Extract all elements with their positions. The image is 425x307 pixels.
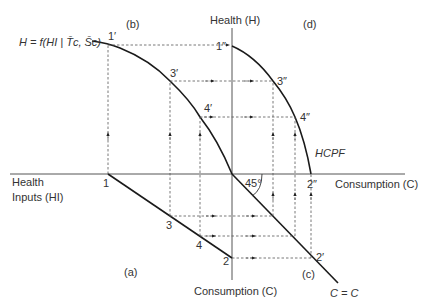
point-2: 2 (223, 255, 229, 267)
health-consumption-diagram: Health (H) Consumption (C) Consumption (… (0, 0, 425, 307)
point-4: 4 (196, 239, 202, 251)
point-4-dprime: 4″ (300, 111, 310, 123)
angle-label: 45° (245, 177, 262, 189)
point-3: 3 (166, 219, 172, 231)
consumption-axis-bottom-label: Consumption (C) (194, 285, 277, 297)
health-inputs-label-line2: Inputs (HI) (12, 191, 63, 203)
health-inputs-label-line1: Health (12, 176, 44, 188)
identity-line-label: C = C (330, 287, 358, 299)
health-axis-label: Health (H) (210, 14, 260, 26)
quadrant-c-label: (c) (302, 268, 315, 280)
quadrant-b-label: (b) (126, 18, 139, 30)
hcpf-label: HCPF (315, 147, 346, 159)
point-2-dprime: 2″ (307, 178, 317, 190)
point-1-dprime: 1″ (216, 40, 226, 52)
identity-line (232, 174, 338, 283)
quadrant-d-label: (d) (303, 18, 316, 30)
point-1-prime: 1′ (108, 30, 116, 42)
quadrant-a-label: (a) (124, 266, 137, 278)
point-2-prime: 2′ (316, 251, 324, 263)
hcpf-curve (232, 46, 311, 174)
consumption-axis-right-label: Consumption (C) (335, 178, 418, 190)
point-1: 1 (103, 177, 109, 189)
point-3-prime: 3′ (170, 67, 178, 79)
production-function-label: H = f(HI | T̄c, S̄c) (19, 36, 101, 48)
point-3-dprime: 3″ (277, 75, 287, 87)
point-4-prime: 4′ (204, 102, 212, 114)
